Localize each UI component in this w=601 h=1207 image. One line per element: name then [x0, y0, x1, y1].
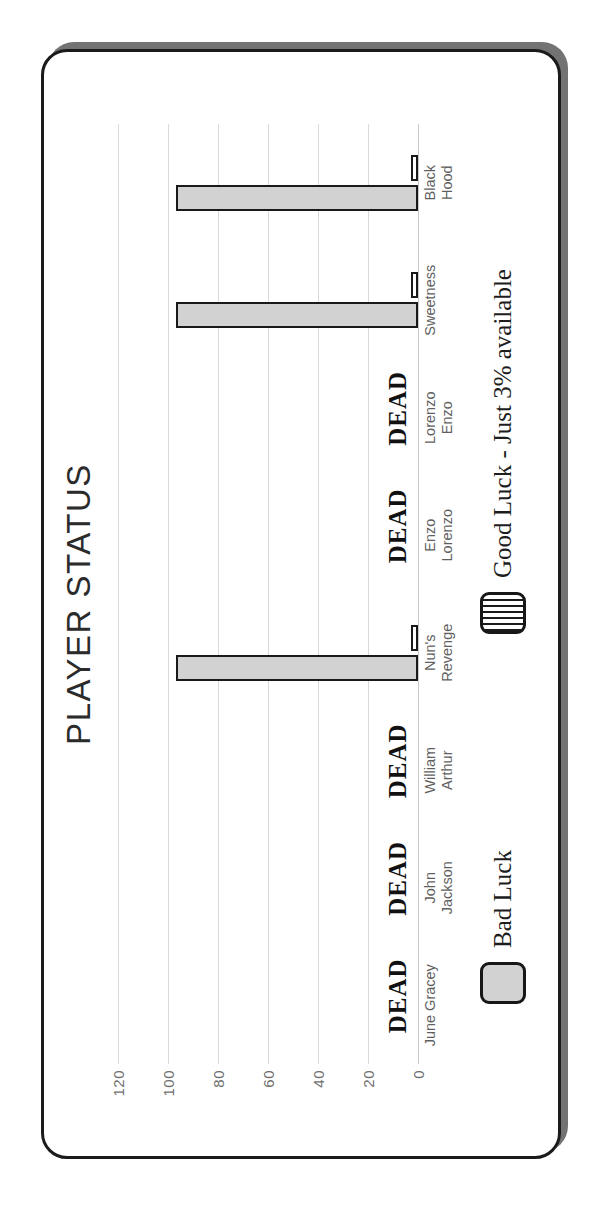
gridline — [318, 124, 319, 1064]
x-axis-category-label: Lorenzo Enzo — [422, 359, 456, 477]
dead-annotation: DEAD — [384, 742, 412, 798]
screenshot-canvas: PLAYER STATUS 020406080100120 DEADDEADDE… — [0, 0, 601, 1207]
dead-annotation: DEAD — [384, 507, 412, 563]
y-axis-tick-labels: 020406080100120 — [118, 1070, 418, 1126]
bar-group — [118, 154, 418, 210]
x-axis-category-label: June Gracey — [422, 946, 439, 1064]
bad-luck-swatch — [480, 962, 526, 1004]
x-axis-category-label: Enzo Lorenzo — [422, 476, 456, 594]
y-axis-tick: 120 — [109, 1070, 126, 1097]
gridline — [368, 124, 369, 1064]
bar — [175, 654, 418, 680]
bar — [175, 302, 418, 328]
x-axis-category-label: Black Hood — [422, 124, 456, 242]
dead-annotation: DEAD — [384, 389, 412, 445]
gridline — [118, 124, 119, 1064]
legend-label: Bad Luck — [489, 850, 517, 948]
y-axis-tick: 0 — [409, 1070, 426, 1079]
x-axis-category-label: John Jackson — [422, 829, 456, 947]
bar — [410, 624, 418, 650]
chart-card: PLAYER STATUS 020406080100120 DEADDEADDE… — [41, 49, 561, 1159]
bar-group: DEAD — [118, 389, 418, 445]
bar — [175, 184, 418, 210]
bar-group: DEAD — [118, 507, 418, 563]
bar-group — [118, 624, 418, 680]
bar-group: DEAD — [118, 742, 418, 798]
x-axis-category-label: William Arthur — [422, 711, 456, 829]
bar-group: DEAD — [118, 977, 418, 1033]
x-axis-category-label: Nun's Revenge — [422, 594, 456, 712]
x-axis-category-labels: June GraceyJohn JacksonWilliam ArthurNun… — [422, 124, 474, 1064]
gridline — [268, 124, 269, 1064]
legend-item[interactable]: Bad Luck — [480, 850, 526, 1004]
chart-legend: Bad LuckGood Luck - Just 3% available — [480, 82, 544, 1064]
good-luck-swatch — [480, 592, 526, 634]
bar-group: DEAD — [118, 859, 418, 915]
gridline — [218, 124, 219, 1064]
rotated-slide-wrapper: PLAYER STATUS 020406080100120 DEADDEADDE… — [41, 49, 561, 1159]
y-axis-tick: 20 — [359, 1070, 376, 1088]
plot-area: DEADDEADDEADDEADDEAD — [118, 124, 418, 1064]
dead-annotation: DEAD — [384, 859, 412, 915]
page-title: PLAYER STATUS — [60, 52, 98, 1156]
gridline — [418, 124, 419, 1064]
bar — [410, 272, 418, 298]
y-axis-tick: 100 — [159, 1070, 176, 1097]
legend-label: Good Luck - Just 3% available — [489, 269, 517, 578]
y-axis-tick: 60 — [259, 1070, 276, 1088]
gridline — [168, 124, 169, 1064]
bar — [410, 154, 418, 180]
bar-group — [118, 272, 418, 328]
y-axis-tick: 80 — [209, 1070, 226, 1088]
legend-item[interactable]: Good Luck - Just 3% available — [480, 269, 526, 634]
x-axis-category-label: Sweetness — [422, 241, 439, 359]
y-axis-tick: 40 — [309, 1070, 326, 1088]
dead-annotation: DEAD — [384, 977, 412, 1033]
